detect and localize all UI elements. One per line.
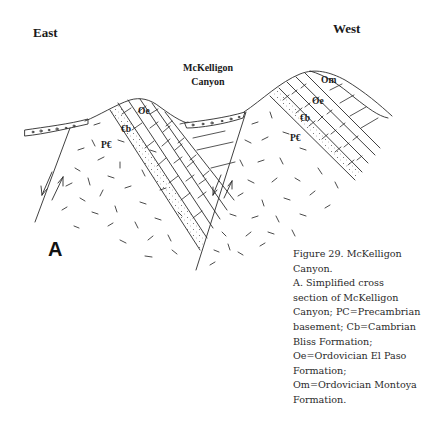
caption-line: Oe=Ordovician El Paso (293, 349, 437, 364)
caption-line: Canyon; PC=Precambrian (293, 305, 437, 320)
unit-label-oe-right: Oe (312, 96, 324, 106)
canyon-alluvium (185, 112, 245, 128)
canyon-label-line2: Canyon (176, 75, 240, 89)
unit-label-om-right: Om (321, 75, 336, 85)
unit-label-pc-left: P€ (101, 140, 112, 150)
caption-line: Formation. (293, 393, 437, 408)
fault-arrow-up-icon (52, 177, 63, 200)
caption-line: Formation; (293, 364, 437, 379)
caption-line: A. Simplified cross (293, 276, 437, 291)
cross-section-figure: East West McKelligon Canyon Oe €b P€ Om … (0, 0, 437, 425)
caption-line: Figure 29. McKelligon (293, 247, 437, 262)
caption-line: Bliss Formation; (293, 335, 437, 350)
canyon-label-line1: McKelligon (176, 61, 240, 75)
unit-label-cb-right: €b (300, 113, 310, 123)
left-alluvium (25, 119, 88, 136)
figure-caption: Figure 29. McKelligon Canyon. A. Simplif… (293, 247, 437, 408)
caption-line: section of McKelligon (293, 291, 437, 306)
caption-line: Canyon. (293, 262, 437, 277)
east-label: East (33, 25, 58, 41)
caption-line: basement; Cb=Cambrian (293, 320, 437, 335)
unit-label-oe-left: Oe (138, 106, 150, 116)
unit-label-pc-right: P€ (290, 133, 301, 143)
west-label: West (333, 21, 360, 37)
panel-label: A (48, 238, 62, 261)
canyon-label: McKelligon Canyon (176, 61, 240, 89)
unit-label-cb-left: €b (121, 124, 131, 134)
caption-line: Om=Ordovician Montoya (293, 378, 437, 393)
